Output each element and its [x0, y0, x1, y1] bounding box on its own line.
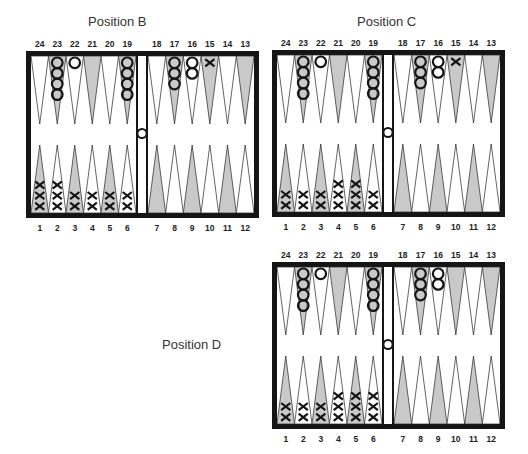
- point-number-label: 6: [371, 434, 376, 444]
- point-number-label: 19: [369, 250, 379, 260]
- point-number-label: 3: [318, 434, 323, 444]
- point-number-label: 21: [334, 38, 344, 48]
- point-number-label: 21: [334, 250, 344, 260]
- point-number-label: 24: [35, 39, 45, 49]
- point-number-label: 5: [353, 222, 358, 232]
- position-title: Position C: [357, 14, 416, 29]
- point-number-label: 24: [281, 38, 291, 48]
- point-number-label: 19: [369, 38, 379, 48]
- point-number-label: 12: [486, 434, 496, 444]
- position-title: Position D: [162, 337, 221, 352]
- point-number-label: 6: [371, 222, 376, 232]
- point-number-label: 1: [283, 222, 288, 232]
- point-number-label: 15: [451, 250, 461, 260]
- point-number-label: 1: [37, 223, 42, 233]
- point-number-label: 8: [172, 223, 177, 233]
- point-number-label: 18: [398, 250, 408, 260]
- point-number-label: 6: [125, 223, 130, 233]
- point-number-label: 15: [205, 39, 215, 49]
- point-number-label: 8: [418, 222, 423, 232]
- bar-o-checker-icon: [383, 128, 392, 137]
- point-number-label: 5: [107, 223, 112, 233]
- point-number-label: 23: [299, 38, 309, 48]
- board-position-b: 123456789101112131415161718192021222324: [26, 37, 259, 234]
- point-number-label: 7: [400, 222, 405, 232]
- point-number-label: 2: [301, 434, 306, 444]
- point-number-label: 14: [469, 250, 479, 260]
- point-number-label: 20: [105, 39, 115, 49]
- point-number-label: 14: [223, 39, 233, 49]
- point-number-label: 7: [154, 223, 159, 233]
- point-number-label: 18: [152, 39, 162, 49]
- point-number-label: 13: [486, 38, 496, 48]
- point-number-label: 14: [469, 38, 479, 48]
- point-number-label: 2: [301, 222, 306, 232]
- point-number-label: 4: [336, 434, 341, 444]
- point-number-label: 10: [451, 434, 461, 444]
- point-number-label: 22: [316, 250, 326, 260]
- point-number-label: 11: [223, 223, 232, 233]
- point-number-label: 3: [318, 222, 323, 232]
- point-number-label: 7: [400, 434, 405, 444]
- point-number-label: 24: [281, 250, 291, 260]
- point-number-label: 21: [88, 39, 98, 49]
- point-number-label: 23: [53, 39, 63, 49]
- board-position-d: 123456789101112131415161718192021222324: [272, 248, 505, 445]
- point-number-label: 12: [486, 222, 496, 232]
- point-number-label: 13: [240, 39, 250, 49]
- point-number-label: 16: [433, 38, 443, 48]
- point-number-label: 20: [351, 38, 361, 48]
- point-number-label: 23: [299, 250, 309, 260]
- point-number-label: 10: [451, 222, 461, 232]
- board-position-c: 123456789101112131415161718192021222324: [272, 36, 505, 233]
- position-title: Position B: [88, 14, 147, 29]
- point-number-label: 10: [205, 223, 215, 233]
- point-number-label: 4: [336, 222, 341, 232]
- bar-o-checker-icon: [383, 340, 392, 349]
- point-number-label: 15: [451, 38, 461, 48]
- bar-o-checker-icon: [137, 129, 146, 138]
- point-number-label: 17: [416, 250, 426, 260]
- point-number-label: 1: [283, 434, 288, 444]
- point-number-label: 9: [436, 434, 441, 444]
- point-number-label: 5: [353, 434, 358, 444]
- point-number-label: 9: [436, 222, 441, 232]
- point-number-label: 17: [416, 38, 426, 48]
- point-number-label: 11: [469, 434, 478, 444]
- point-number-label: 4: [90, 223, 95, 233]
- point-number-label: 3: [72, 223, 77, 233]
- point-number-label: 13: [486, 250, 496, 260]
- point-number-label: 12: [240, 223, 250, 233]
- point-number-label: 16: [433, 250, 443, 260]
- point-number-label: 18: [398, 38, 408, 48]
- point-number-label: 16: [187, 39, 197, 49]
- point-number-label: 11: [469, 222, 478, 232]
- point-number-label: 2: [55, 223, 60, 233]
- point-number-label: 17: [170, 39, 180, 49]
- point-number-label: 8: [418, 434, 423, 444]
- point-number-label: 9: [190, 223, 195, 233]
- point-number-label: 22: [70, 39, 80, 49]
- point-number-label: 22: [316, 38, 326, 48]
- point-number-label: 19: [123, 39, 133, 49]
- point-number-label: 20: [351, 250, 361, 260]
